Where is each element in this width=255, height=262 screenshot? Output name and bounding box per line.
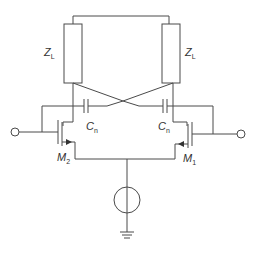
- label-cn-left: Cn: [86, 120, 98, 134]
- cross-wire-left: [73, 83, 123, 106]
- input-terminal-left: [11, 128, 19, 136]
- drain-to-m2: [63, 122, 73, 126]
- label-m2: M2: [57, 151, 70, 165]
- drain-to-m1: [173, 122, 187, 126]
- input-terminal-right: [237, 130, 245, 138]
- label-zl-left: ZL: [43, 46, 55, 60]
- m1-arrow-icon: [178, 141, 184, 147]
- top-wire: [73, 16, 169, 24]
- circuit-svg: ZL ZL Cn Cn M2 M1: [0, 0, 255, 262]
- m2-arrow-icon: [66, 139, 72, 145]
- label-m1: M1: [183, 152, 196, 166]
- impedance-zl-left: [64, 24, 82, 83]
- label-cn-right: Cn: [158, 120, 170, 134]
- circuit-diagram: ZL ZL Cn Cn M2 M1: [0, 0, 255, 262]
- label-zl-right: ZL: [184, 46, 196, 60]
- impedance-zl-right: [162, 24, 180, 83]
- cross-wire-right: [123, 83, 173, 106]
